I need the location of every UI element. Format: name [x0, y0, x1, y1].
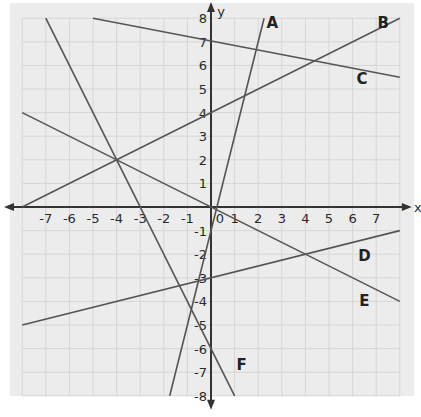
y-tick-label: 7	[199, 35, 207, 50]
line-label-b: B	[378, 14, 389, 32]
y-tick-label: -8	[194, 389, 207, 404]
x-tick-label: -3	[134, 211, 147, 226]
line-label-e: E	[359, 292, 369, 310]
x-tick-label: -2	[157, 211, 170, 226]
y-axis-label: y	[217, 4, 225, 19]
x-axis-label: x	[414, 200, 421, 215]
y-tick-label: 6	[199, 58, 207, 73]
x-tick-label: -5	[87, 211, 100, 226]
x-arrow-left-icon	[4, 203, 14, 211]
x-tick-label: 7	[372, 211, 380, 226]
x-tick-label: -1	[181, 211, 194, 226]
x-tick-label: 6	[348, 211, 356, 226]
coordinate-plane: -7-6-5-4-3-2-11234567087654321-1-2-3-4-5…	[0, 0, 421, 417]
y-tick-label: -1	[194, 224, 207, 239]
x-tick-label: 2	[254, 211, 262, 226]
x-tick-label: -4	[110, 211, 123, 226]
line-label-f: F	[237, 356, 247, 374]
y-tick-label: 2	[199, 153, 207, 168]
line-label-d: D	[358, 247, 370, 265]
y-tick-label: -4	[194, 294, 207, 309]
y-tick-label: -6	[194, 342, 207, 357]
y-arrow-down-icon	[207, 400, 215, 410]
y-tick-label: -7	[194, 365, 207, 380]
y-tick-label: 8	[199, 11, 207, 26]
x-tick-label: -6	[63, 211, 76, 226]
line-label-c: C	[357, 70, 368, 88]
x-tick-label: 5	[325, 211, 333, 226]
y-tick-label: 3	[199, 129, 207, 144]
x-tick-label: 4	[301, 211, 309, 226]
line-label-a: A	[267, 14, 279, 32]
x-tick-label: 3	[278, 211, 286, 226]
y-tick-label: 5	[199, 82, 207, 97]
y-tick-label: 1	[199, 176, 207, 191]
x-tick-label: -7	[39, 211, 52, 226]
